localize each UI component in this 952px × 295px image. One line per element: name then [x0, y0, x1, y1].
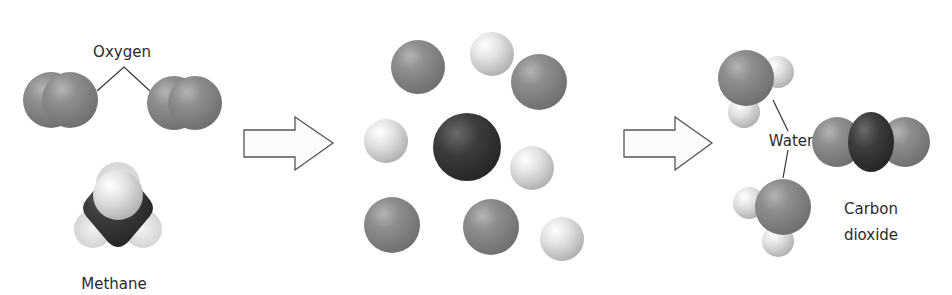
- water-molecule-top: [718, 50, 794, 128]
- water-leader-line-top: [773, 100, 788, 131]
- oxygen-leader-line: [97, 67, 150, 91]
- carbon-dioxide-label-line1: Carbon: [844, 200, 898, 218]
- oxygen-molecule-left: [23, 72, 98, 128]
- products-group: Water Carbon dioxide: [718, 50, 930, 257]
- reaction-arrow-2: [624, 117, 712, 170]
- hydrogen-atom-front: [93, 170, 143, 220]
- reactants-group: Oxygen Methane: [23, 43, 222, 293]
- oxygen-atom: [391, 40, 445, 94]
- hydrogen-atom: [364, 119, 408, 163]
- oxygen-atom: [168, 76, 222, 130]
- water-label: Water: [769, 132, 814, 150]
- reaction-arrow-1: [244, 117, 333, 170]
- carbon-atom: [433, 113, 501, 181]
- oxygen-atom: [364, 197, 420, 253]
- oxygen-atom: [755, 179, 811, 235]
- oxygen-atom: [718, 50, 774, 106]
- hydrogen-atom: [510, 146, 554, 190]
- hydrogen-atom: [470, 32, 514, 76]
- methane-molecule: [74, 162, 162, 248]
- combustion-diagram: Oxygen Methane: [0, 0, 952, 295]
- methane-label: Methane: [81, 275, 147, 293]
- oxygen-molecule-right: [147, 76, 222, 130]
- oxygen-atom: [42, 72, 98, 128]
- carbon-atom: [848, 112, 894, 172]
- water-molecule-bottom: [733, 179, 811, 257]
- separated-atoms-group: [364, 32, 584, 261]
- carbon-dioxide-molecule: [812, 112, 930, 172]
- hydrogen-atom: [540, 217, 584, 261]
- oxygen-label: Oxygen: [93, 43, 151, 61]
- carbon-dioxide-label-line2: dioxide: [844, 226, 898, 244]
- oxygen-atom: [511, 54, 567, 110]
- water-leader-line-bottom: [783, 150, 788, 178]
- oxygen-atom: [463, 199, 519, 255]
